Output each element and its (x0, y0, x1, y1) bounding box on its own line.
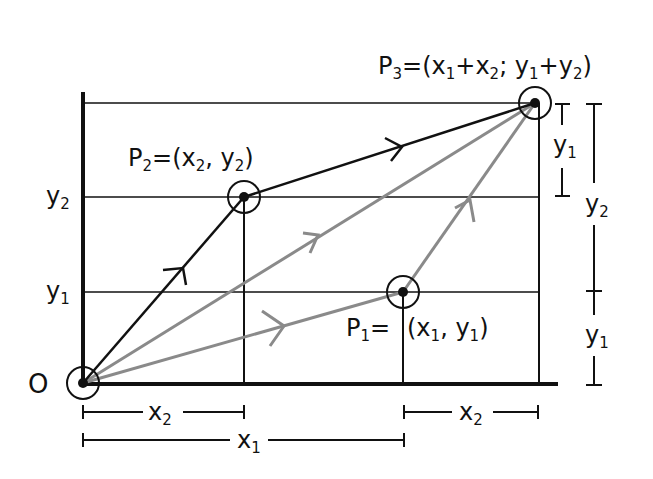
p1-coords-label: (x1, y1) (407, 314, 489, 345)
vector-addition-diagram: O y2 y1 P3=(x1+x2; y1+y2) P2=(x2, y2) P1… (0, 0, 653, 479)
x2-dimension-label-right: x2 (459, 398, 483, 429)
y2-axis-label: y2 (46, 182, 70, 213)
y1-axis-label: y1 (46, 277, 70, 308)
y1-dimension-label-inner: y1 (553, 131, 577, 162)
path-o-to-p2 (83, 197, 244, 383)
y2-dimension-label-outer: y2 (585, 190, 609, 221)
y1-dimension-label-outer: y1 (585, 321, 609, 352)
p2-label: P2=(x2, y2) (128, 144, 254, 175)
p1-label: P1= (346, 314, 390, 345)
p3-label: P3=(x1+x2; y1+y2) (378, 52, 592, 83)
origin-label: O (28, 369, 48, 399)
x2-dimension-label-left: x2 (148, 398, 172, 429)
x1-dimension-label: x1 (237, 426, 261, 457)
path-p2-to-p3 (244, 103, 535, 197)
